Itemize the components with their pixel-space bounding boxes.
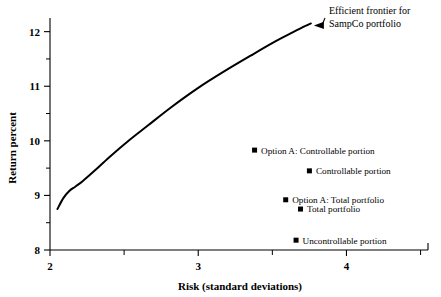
annotation-text-line-1: Efficient frontier for: [329, 5, 411, 16]
y-axis-title: Return percent: [6, 112, 18, 184]
data-point-marker-2: [283, 197, 288, 202]
x-tick-label: 3: [195, 260, 201, 272]
chart-container: 89101112 234 Return percent Risk (standa…: [0, 0, 441, 297]
y-tick-label: 8: [35, 244, 41, 256]
data-point-label-1: Controllable portion: [316, 166, 391, 176]
data-point-marker-1: [307, 168, 312, 173]
data-point-marker-0: [252, 148, 257, 153]
data-point-marker-4: [294, 238, 299, 243]
data-point-label-0: Option A: Controllable portion: [261, 146, 375, 156]
x-tick-label: 2: [47, 260, 53, 272]
efficient-frontier-chart: 89101112 234 Return percent Risk (standa…: [0, 0, 441, 297]
data-point-label-4: Uncontrollable portion: [303, 236, 387, 246]
y-tick-label: 9: [35, 189, 41, 201]
x-tick-label: 4: [344, 260, 350, 272]
y-tick-label: 10: [29, 135, 41, 147]
data-point-label-3: Total portfolio: [307, 204, 361, 214]
chart-background: [0, 0, 441, 297]
y-tick-label: 12: [29, 26, 41, 38]
y-tick-label: 11: [30, 80, 40, 92]
data-point-marker-3: [298, 207, 303, 212]
x-axis-title: Risk (standard deviations): [178, 280, 302, 293]
annotation-text-line-2: SampCo portfolio: [329, 18, 401, 29]
